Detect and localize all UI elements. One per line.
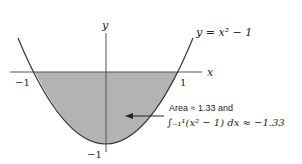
y-axis-label: y — [101, 19, 109, 32]
annotation-area: Area ≈ 1.33 and — [169, 103, 233, 113]
parabola-area-diagram: y x y = x² − 1 −1 1 −1 Area ≈ 1.33 and ∫… — [0, 0, 302, 164]
tick-label-x-pos: 1 — [180, 77, 186, 88]
function-label: y = x² − 1 — [195, 26, 252, 39]
tick-label-x-neg: −1 — [15, 77, 30, 88]
x-axis-label: x — [207, 66, 214, 79]
annotation-integral: ∫₋₁¹(x² − 1) dx ≈ −1.33 — [167, 117, 285, 128]
tick-label-y-neg: −1 — [87, 149, 102, 160]
